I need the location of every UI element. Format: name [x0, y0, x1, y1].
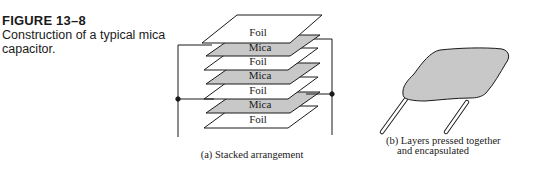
- panel-a-caption: (a) Stacked arrangement: [201, 149, 304, 161]
- lead-right: [446, 102, 467, 132]
- left-wire: [178, 45, 212, 137]
- layer-label: Mica: [249, 98, 272, 110]
- layer-label: Foil: [249, 55, 267, 67]
- panel-b-caption-line2: and encapsulated: [397, 145, 470, 156]
- lead-left: [382, 99, 406, 132]
- layer-label: Foil: [249, 113, 267, 125]
- encapsulated-capacitor: [382, 48, 509, 132]
- layer-label: Foil: [249, 26, 267, 38]
- capacitor-diagram: Foil Mica Foil Mica Foil Mica Foil (a) S…: [0, 0, 534, 170]
- right-wire: [312, 39, 332, 135]
- layer-label: Foil: [249, 84, 267, 96]
- right-junction: [330, 92, 334, 96]
- layer-label: Mica: [249, 69, 272, 81]
- layer-label: Mica: [249, 41, 272, 53]
- left-junction: [176, 97, 180, 101]
- encapsulation-body: [403, 48, 509, 101]
